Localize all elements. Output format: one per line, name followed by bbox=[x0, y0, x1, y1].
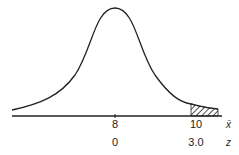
tick-label-xbar-tail: 10 bbox=[190, 118, 202, 130]
normal-curve-chart bbox=[0, 0, 239, 155]
axis-label-z: z bbox=[226, 137, 231, 148]
shaded-tail bbox=[191, 104, 218, 116]
axis-label-xbar: x̄ bbox=[226, 119, 231, 130]
tick-label-z-mean: 0 bbox=[112, 136, 118, 148]
tick-label-xbar-mean: 8 bbox=[112, 118, 118, 130]
tick-label-z-tail: 3.0 bbox=[188, 136, 203, 148]
density-curve bbox=[12, 8, 218, 110]
